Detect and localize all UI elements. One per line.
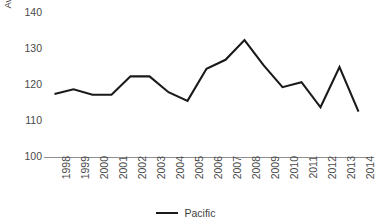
x-tick-label: 2013 <box>345 156 357 202</box>
legend-swatch-pacific <box>156 212 178 214</box>
y-tick-label: 100 <box>12 151 42 162</box>
x-tick-label: 2009 <box>269 156 281 202</box>
x-tick-label: 2012 <box>326 156 338 202</box>
x-tick-label: 2011 <box>307 156 319 202</box>
chart-legend: Pacific <box>0 205 371 221</box>
y-tick-label: 140 <box>12 7 42 18</box>
x-tick-label: 2000 <box>98 156 110 202</box>
x-tick-label: 2003 <box>155 156 167 202</box>
x-tick-label: 2001 <box>117 156 129 202</box>
series-line-pacific <box>55 40 359 112</box>
y-tick-label: 130 <box>12 43 42 54</box>
plot-area <box>45 8 368 158</box>
x-tick-label: 1999 <box>79 156 91 202</box>
x-tick-label: 2007 <box>231 156 243 202</box>
x-tick-label: 2002 <box>136 156 148 202</box>
y-axis-tick-labels: 100110120130140 <box>12 0 42 224</box>
x-tick-label: 2008 <box>250 156 262 202</box>
y-tick-label: 120 <box>12 79 42 90</box>
x-tick-label: 1998 <box>60 156 72 202</box>
y-tick-label: 110 <box>12 115 42 126</box>
series-plot <box>45 8 368 158</box>
x-tick-label: 2004 <box>174 156 186 202</box>
x-axis-tick-labels: 1998199920002001200220032004200520062007… <box>45 158 368 204</box>
x-tick-label: 2014 <box>364 156 376 202</box>
x-tick-label: 2005 <box>193 156 205 202</box>
x-tick-label: 2006 <box>212 156 224 202</box>
legend-label-pacific: Pacific <box>185 208 216 219</box>
x-tick-label: 2010 <box>288 156 300 202</box>
